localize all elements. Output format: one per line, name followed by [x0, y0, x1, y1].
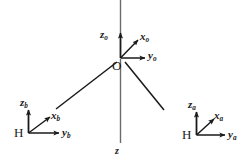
axis-arrow-x-o — [121, 40, 139, 58]
label-z-a: za — [188, 99, 196, 110]
label-z-o: zo — [100, 29, 108, 40]
diagram-canvas — [0, 0, 248, 161]
label-z-b: zb — [20, 97, 28, 108]
label-h-left: H — [14, 126, 23, 139]
label-x-b: xb — [51, 110, 60, 121]
label-y-a: ya — [228, 129, 237, 140]
label-x-a: xa — [214, 110, 223, 121]
label-origin-o: O — [112, 59, 121, 72]
origin-to-left-frame-line — [56, 62, 117, 109]
label-y-o: yo — [148, 50, 157, 61]
label-x-o: xo — [140, 31, 149, 42]
label-z-bottom: z — [115, 146, 119, 156]
origin-to-right-frame-line — [125, 62, 164, 110]
coordinate-frame-diagram: zo xo yo O zb xb yb H za xa ya H z — [0, 0, 248, 161]
label-h-right: H — [182, 128, 191, 141]
axis-arrow-x-a — [197, 119, 215, 135]
label-y-b: yb — [62, 127, 71, 138]
axis-arrow-x-b — [29, 117, 51, 133]
